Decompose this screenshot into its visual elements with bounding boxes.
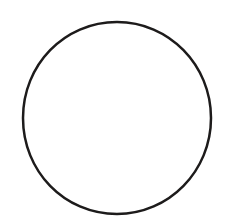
image-canvas: [0, 0, 230, 221]
canvas-background: [0, 0, 230, 221]
circle-figure: [0, 0, 230, 221]
